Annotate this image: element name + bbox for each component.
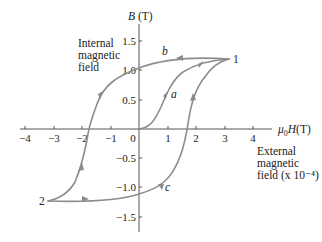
svg-text:4: 4 <box>250 132 256 144</box>
svg-text:−0.5: −0.5 <box>116 152 136 164</box>
branch-b-label: b <box>162 45 168 57</box>
point-1-label: 1 <box>233 53 239 65</box>
curve-a <box>139 59 229 129</box>
branch-a-label: a <box>171 88 177 100</box>
y-axis-title: B (T) <box>128 10 153 23</box>
svg-text:−3: −3 <box>48 132 60 144</box>
svg-text:−1.5: −1.5 <box>116 211 136 223</box>
svg-text:External: External <box>257 145 296 157</box>
svg-text:−1: −1 <box>105 132 117 144</box>
svg-text:3: 3 <box>222 132 228 144</box>
x-tick-labels: −4 −3 −2 −1 0 1 2 3 4 <box>19 132 256 144</box>
arrow-icon <box>198 61 204 68</box>
svg-text:2: 2 <box>193 132 199 144</box>
svg-text:0: 0 <box>130 132 136 144</box>
external-field-note: External magnetic field (x 10⁻⁴) <box>257 145 319 182</box>
svg-text:field (x 10⁻⁴): field (x 10⁻⁴) <box>257 169 319 182</box>
x-axis-title: μ0H(T) <box>277 123 311 138</box>
svg-text:1.5: 1.5 <box>122 35 136 47</box>
svg-text:field: field <box>78 61 99 73</box>
svg-text:−1.0: −1.0 <box>116 181 136 193</box>
branch-c-label: c <box>165 181 170 193</box>
hysteresis-chart: −4 −3 −2 −1 0 1 2 3 4 1.5 1.0 0.5 −0.5 −… <box>0 0 322 242</box>
svg-text:Internal: Internal <box>78 37 114 49</box>
svg-text:0.5: 0.5 <box>122 94 136 106</box>
point-2-label: 2 <box>39 195 45 207</box>
arrow-icon <box>163 91 168 99</box>
svg-text:−4: −4 <box>19 132 31 144</box>
arrow-icon <box>158 184 164 190</box>
svg-text:1: 1 <box>165 132 171 144</box>
internal-field-note: Internal magnetic field <box>78 37 120 73</box>
